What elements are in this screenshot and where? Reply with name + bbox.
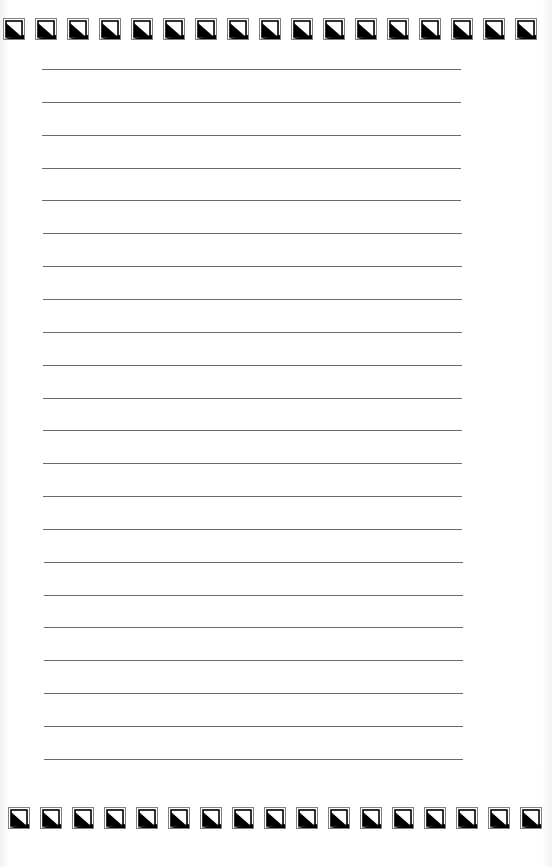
ruled-line xyxy=(43,266,462,267)
ruled-line xyxy=(42,200,461,201)
ruled-line xyxy=(44,759,463,760)
ruled-line xyxy=(43,332,462,333)
ruled-line xyxy=(44,562,463,563)
triangle-square-tile-icon xyxy=(232,807,254,829)
ruled-line xyxy=(44,693,463,694)
ruled-line xyxy=(44,660,463,661)
triangle-square-tile-icon xyxy=(488,807,510,829)
ruled-line xyxy=(43,496,462,497)
bottom-decorative-border xyxy=(0,807,552,833)
triangle-square-tile-icon xyxy=(104,807,126,829)
triangle-square-tile-icon xyxy=(8,807,30,829)
triangle-square-tile-icon xyxy=(264,807,286,829)
ruled-line xyxy=(42,102,461,103)
ruled-line xyxy=(44,627,463,628)
ruled-line xyxy=(43,463,462,464)
triangle-square-tile-icon xyxy=(360,807,382,829)
ruled-line xyxy=(43,299,462,300)
triangle-square-tile-icon xyxy=(168,807,190,829)
ruled-line xyxy=(43,398,462,399)
ruled-line xyxy=(42,168,461,169)
triangle-square-tile-icon xyxy=(456,807,478,829)
ruled-lines-area xyxy=(0,0,552,867)
ruled-line xyxy=(44,726,463,727)
ruled-line xyxy=(43,529,462,530)
triangle-square-tile-icon xyxy=(40,807,62,829)
triangle-square-tile-icon xyxy=(136,807,158,829)
ruled-line xyxy=(42,135,461,136)
ruled-line xyxy=(43,430,462,431)
ruled-line xyxy=(42,69,461,70)
ruled-line xyxy=(43,233,462,234)
triangle-square-tile-icon xyxy=(200,807,222,829)
ruled-line xyxy=(44,595,463,596)
triangle-square-tile-icon xyxy=(424,807,446,829)
triangle-square-tile-icon xyxy=(72,807,94,829)
ruled-line xyxy=(43,365,462,366)
triangle-square-tile-icon xyxy=(392,807,414,829)
triangle-square-tile-icon xyxy=(328,807,350,829)
triangle-square-tile-icon xyxy=(520,807,542,829)
triangle-square-tile-icon xyxy=(296,807,318,829)
